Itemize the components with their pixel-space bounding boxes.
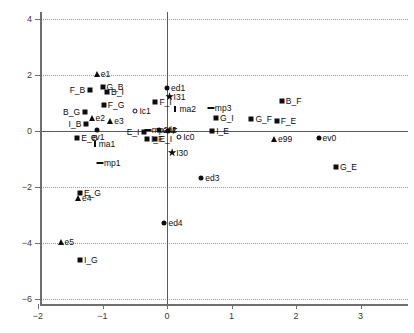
x-tick-label-3: 1 bbox=[229, 311, 234, 321]
point-label-e5: e5 bbox=[65, 237, 74, 247]
y-tick-1 bbox=[35, 75, 40, 76]
y-tick-0 bbox=[35, 19, 40, 20]
point-label-Ic1: Ic1 bbox=[139, 106, 150, 116]
y-tick-4 bbox=[35, 243, 40, 244]
point-label-ev0: ev0 bbox=[323, 133, 337, 143]
data-point-I_E bbox=[210, 129, 215, 134]
point-label-e1: e1 bbox=[101, 69, 110, 79]
y-tick-label-3: −2 bbox=[18, 182, 32, 192]
data-point-ed4 bbox=[162, 221, 167, 226]
point-label-F_G: F_G bbox=[108, 100, 125, 110]
data-point-E_B bbox=[75, 136, 80, 141]
y-axis-zero-line bbox=[167, 12, 168, 304]
data-point-ed1 bbox=[165, 85, 170, 90]
point-label-F_I: F_I bbox=[159, 97, 171, 107]
point-label-e99: e99 bbox=[278, 134, 292, 144]
gridline-y--6 bbox=[40, 299, 408, 300]
point-label-e3: e3 bbox=[114, 116, 123, 126]
data-point-ed2 bbox=[156, 127, 161, 132]
axis-spine-bottom bbox=[40, 304, 408, 306]
x-tick-0 bbox=[38, 304, 39, 309]
x-tick-label-1: −1 bbox=[97, 311, 107, 321]
x-tick-2 bbox=[167, 304, 168, 309]
point-label-e4: e4 bbox=[82, 193, 91, 203]
x-tick-label-2: 0 bbox=[164, 311, 169, 321]
point-label-I_B: I_B bbox=[69, 119, 82, 129]
point-label-I31: I31 bbox=[174, 92, 186, 102]
x-tick-label-5: 3 bbox=[358, 311, 363, 321]
y-tick-label-5: −6 bbox=[18, 294, 32, 304]
point-label-G_E: G_E bbox=[340, 162, 357, 172]
x-tick-3 bbox=[232, 304, 233, 309]
x-tick-5 bbox=[361, 304, 362, 309]
data-point-B_F bbox=[279, 99, 284, 104]
axis-spine-left bbox=[40, 12, 42, 304]
data-point-e3 bbox=[107, 118, 113, 124]
point-label-ma2: ma2 bbox=[179, 104, 196, 114]
data-point-B_G bbox=[83, 109, 88, 114]
data-point-I_G bbox=[77, 257, 82, 262]
point-label-B_G: B_G bbox=[63, 107, 80, 117]
data-point-I_B bbox=[84, 121, 89, 126]
data-point-e99 bbox=[271, 136, 277, 142]
y-tick-label-0: 4 bbox=[18, 14, 32, 24]
point-label-Ic0: Ic0 bbox=[183, 132, 194, 142]
x-tick-1 bbox=[103, 304, 104, 309]
point-label-e2: e2 bbox=[96, 113, 105, 123]
data-point-Ic0 bbox=[177, 134, 182, 139]
data-point-G_F bbox=[249, 116, 254, 121]
point-label-G_F: G_F bbox=[255, 114, 272, 124]
data-point-Ic1 bbox=[133, 108, 138, 113]
y-tick-3 bbox=[35, 187, 40, 188]
point-label-ed4: ed4 bbox=[168, 218, 182, 228]
point-label-ed3: ed3 bbox=[205, 173, 219, 183]
data-point-F_B bbox=[88, 88, 93, 93]
point-label-F_B: F_B bbox=[70, 85, 86, 95]
data-point-F_E bbox=[274, 119, 279, 124]
data-point-e4 bbox=[75, 195, 81, 201]
data-point-E_I bbox=[153, 137, 158, 142]
data-point-mp3 bbox=[207, 107, 214, 109]
point-label-I_E: I_E bbox=[216, 126, 229, 136]
point-label-F_E: F_E bbox=[281, 116, 297, 126]
point-label-I30: I30 bbox=[176, 148, 188, 158]
data-point-e1 bbox=[94, 71, 100, 77]
data-point-ma2 bbox=[174, 106, 176, 112]
plot-area: −2−10123420−2−4−6e1G_BB_IF_Bed1I31F_IF_G… bbox=[0, 0, 414, 333]
data-point-ma1 bbox=[94, 141, 96, 147]
point-label-mp3: mp3 bbox=[215, 103, 232, 113]
data-point-e5 bbox=[58, 239, 64, 245]
data-point-G_E bbox=[333, 164, 338, 169]
data-point-ev0 bbox=[316, 135, 321, 140]
point-label-ma1: ma1 bbox=[99, 139, 116, 149]
x-tick-label-4: 2 bbox=[293, 311, 298, 321]
point-label-G_I: G_I bbox=[220, 113, 234, 123]
y-tick-5 bbox=[35, 299, 40, 300]
data-point-ed3 bbox=[199, 176, 204, 181]
point-label-B_F: B_F bbox=[286, 96, 302, 106]
point-label-E_I: E_I bbox=[127, 127, 140, 137]
data-point-E_I bbox=[142, 130, 147, 135]
x-tick-4 bbox=[296, 304, 297, 309]
x-tick-label-0: −2 bbox=[33, 311, 43, 321]
y-tick-label-2: 0 bbox=[18, 126, 32, 136]
data-point-F_G bbox=[101, 102, 106, 107]
data-point-B_I bbox=[105, 89, 110, 94]
point-label-B_I: B_I bbox=[111, 87, 124, 97]
point-label-E_I: E_I bbox=[159, 134, 172, 144]
data-point-F bbox=[166, 128, 171, 133]
y-tick-label-4: −4 bbox=[18, 238, 32, 248]
point-label-mp1: mp1 bbox=[104, 158, 121, 168]
gridline-y-4 bbox=[40, 19, 408, 20]
data-point-mp1 bbox=[96, 162, 103, 164]
gridline-y--4 bbox=[40, 243, 408, 244]
y-tick-label-1: 2 bbox=[18, 70, 32, 80]
data-point-e2 bbox=[89, 115, 95, 121]
point-label-I_G: I_G bbox=[84, 255, 98, 265]
data-point-F_I bbox=[153, 99, 158, 104]
scatter-plot-figure: −2−10123420−2−4−6e1G_BB_IF_Bed1I31F_IF_G… bbox=[0, 0, 414, 333]
data-point-I_F bbox=[145, 137, 150, 142]
y-tick-2 bbox=[35, 131, 40, 132]
data-point-G_I bbox=[214, 115, 219, 120]
